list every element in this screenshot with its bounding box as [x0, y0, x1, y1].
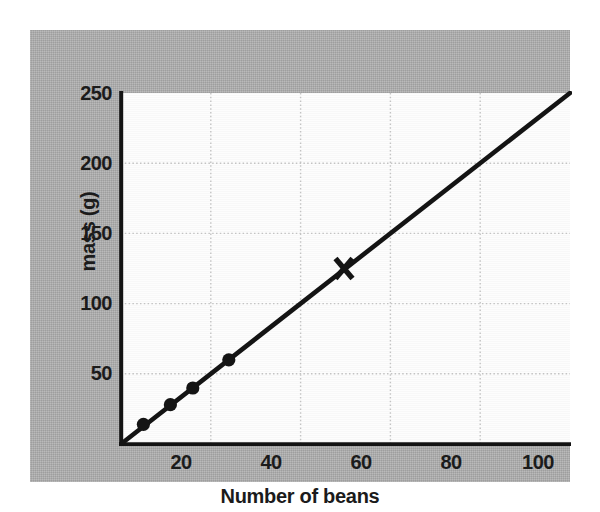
x-tick-label: 80 — [440, 451, 461, 474]
x-tick-label: 20 — [170, 451, 191, 474]
y-axis-title: mass (g) — [77, 172, 100, 292]
figure-container: 250 200 150 100 50 20 40 60 80 100 Numbe… — [0, 0, 600, 512]
x-tick-label: 60 — [350, 451, 371, 474]
x-tick-label: 40 — [260, 451, 281, 474]
x-axis-title: Number of beans — [30, 485, 570, 508]
scanned-page-panel: 250 200 150 100 50 20 40 60 80 100 Numbe… — [30, 30, 570, 482]
y-tick-label: 50 — [62, 362, 112, 385]
plot-area — [121, 93, 570, 444]
x-tick-label: 100 — [522, 451, 554, 474]
y-tick-label: 250 — [62, 82, 112, 105]
y-tick-label: 100 — [62, 292, 112, 315]
